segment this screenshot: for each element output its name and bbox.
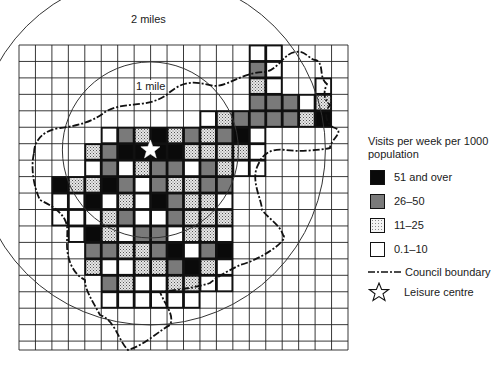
- grid-cell: [216, 275, 232, 291]
- grid-cell: [151, 259, 167, 275]
- grid-cell: [249, 45, 265, 61]
- grid-cell: [249, 94, 265, 110]
- grid-cell: [118, 193, 134, 209]
- grid-cell: [134, 177, 150, 193]
- grid-cell: [151, 127, 167, 143]
- legend-label: 26–50: [394, 195, 425, 208]
- outer-ring-label: 2 miles: [130, 13, 167, 25]
- grid-cell: [101, 210, 117, 226]
- grid-cell: [101, 226, 117, 242]
- grid-cell: [184, 210, 200, 226]
- legend-swatch-white: [370, 242, 385, 257]
- grid-cell: [216, 177, 232, 193]
- grid-cell: [200, 259, 216, 275]
- grid-cell: [151, 210, 167, 226]
- grid-cell: [118, 160, 134, 176]
- grid-cell: [134, 193, 150, 209]
- star-outline-icon: [368, 282, 390, 302]
- grid-cell: [118, 275, 134, 291]
- grid-cell: [85, 160, 101, 176]
- legend-title: Visits per week per 1000 population: [368, 135, 503, 161]
- grid-cell: [151, 275, 167, 291]
- grid-cell: [266, 94, 282, 110]
- grid-cell: [101, 127, 117, 143]
- grid-cell: [118, 292, 134, 308]
- grid-cell: [167, 144, 183, 160]
- grid-cell: [134, 292, 150, 308]
- grid-cell: [101, 144, 117, 160]
- grid-cell: [167, 242, 183, 258]
- grid-cell: [134, 242, 150, 258]
- grid-cell: [167, 193, 183, 209]
- legend: Visits per week per 1000 population 51 a…: [368, 135, 503, 309]
- grid-cell: [200, 210, 216, 226]
- grid-cell: [184, 226, 200, 242]
- grid-cell: [184, 259, 200, 275]
- grid-cell: [184, 193, 200, 209]
- grid-cell: [118, 177, 134, 193]
- grid-cell: [249, 61, 265, 77]
- legend-item-51-and-over: 51 and over: [368, 169, 503, 185]
- grid-cell: [118, 210, 134, 226]
- legend-label: 11–25: [394, 219, 424, 232]
- grid-cell: [68, 193, 84, 209]
- grid-cell: [233, 127, 249, 143]
- grid-cell: [216, 210, 232, 226]
- grid-cell: [216, 144, 232, 160]
- grid-cell: [233, 111, 249, 127]
- grid-cell: [216, 259, 232, 275]
- grid-cell: [134, 226, 150, 242]
- grid-cell: [200, 226, 216, 242]
- grid-cell: [118, 127, 134, 143]
- grid-cell: [85, 226, 101, 242]
- grid-cell: [249, 78, 265, 94]
- legend-item-11-25: 11–25: [368, 217, 503, 233]
- grid-cell: [85, 242, 101, 258]
- grid-cell: [249, 160, 265, 176]
- grid-cell: [184, 160, 200, 176]
- grid-cell: [167, 160, 183, 176]
- grid-cell: [299, 94, 315, 110]
- dash-dot-line-icon: [368, 269, 402, 275]
- grid-cell: [134, 259, 150, 275]
- grid-cell: [167, 259, 183, 275]
- legend-item-0-1-10: 0.1–10: [368, 241, 503, 257]
- grid-cell: [101, 242, 117, 258]
- grid-cell: [184, 144, 200, 160]
- grid-cell: [101, 160, 117, 176]
- grid-cell: [134, 210, 150, 226]
- grid-cell: [216, 193, 232, 209]
- grid-cell: [118, 144, 134, 160]
- grid-cell: [151, 193, 167, 209]
- grid-cell: [101, 292, 117, 308]
- grid-cell: [216, 160, 232, 176]
- grid-cell: [200, 144, 216, 160]
- grid-cell: [200, 127, 216, 143]
- grid-cell: [151, 242, 167, 258]
- grid-cell: [118, 242, 134, 258]
- grid-cell: [52, 177, 68, 193]
- grid-cell: [249, 144, 265, 160]
- grid-cell: [233, 144, 249, 160]
- grid-cell: [184, 127, 200, 143]
- grid-cell: [101, 193, 117, 209]
- grid-cell: [249, 127, 265, 143]
- legend-swatch-black: [370, 170, 385, 185]
- grid-cell: [266, 78, 282, 94]
- grid-cell: [249, 111, 265, 127]
- grid-cell: [266, 111, 282, 127]
- legend-item-council-boundary: Council boundary: [368, 265, 503, 279]
- grid-cell: [167, 177, 183, 193]
- grid-cell: [134, 127, 150, 143]
- grid-cell: [134, 160, 150, 176]
- grid-cell: [52, 193, 68, 209]
- legend-swatch-stipple: [370, 218, 385, 233]
- grid-cell: [85, 193, 101, 209]
- grid-cell: [282, 111, 298, 127]
- grid-cell: [101, 275, 117, 291]
- inner-ring-label: 1 mile: [135, 80, 166, 92]
- grid-cell: [216, 242, 232, 258]
- legend-label: 51 and over: [394, 171, 452, 184]
- grid-cell: [85, 144, 101, 160]
- grid-cell: [167, 292, 183, 308]
